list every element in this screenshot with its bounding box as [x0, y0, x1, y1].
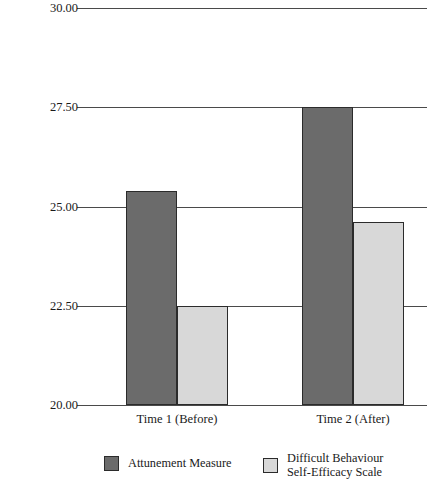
gridline-30.00 — [86, 8, 427, 9]
legend-label: Difficult BehaviourSelf-Efficacy Scale — [287, 452, 383, 479]
y-axis-tick-mark — [77, 207, 86, 208]
y-axis-tick-mark — [77, 405, 86, 406]
bar — [126, 191, 177, 405]
y-axis-tick-label: 30.00 — [20, 1, 78, 16]
y-axis-tick-mark — [77, 306, 86, 307]
y-axis-tick-mark — [77, 107, 86, 108]
bar — [302, 107, 353, 405]
y-axis-tick-label: 27.50 — [20, 100, 78, 115]
y-axis-tick-label: 22.50 — [20, 298, 78, 313]
bar-chart: Average Score 30.0027.5025.0022.5020.00 … — [0, 0, 447, 495]
gridline-20.00 — [86, 405, 427, 406]
legend-swatch-icon — [104, 456, 119, 471]
legend-swatch-icon — [263, 458, 278, 473]
y-axis-tick-mark — [77, 8, 86, 9]
y-axis-tick-label: 25.00 — [20, 199, 78, 214]
legend-item[interactable]: Attunement Measure — [104, 456, 231, 471]
bar — [353, 222, 404, 405]
legend-item[interactable]: Difficult BehaviourSelf-Efficacy Scale — [263, 452, 383, 479]
gridline-27.50 — [86, 107, 427, 108]
x-axis-label-2: Time 2 (After) — [273, 412, 433, 427]
y-axis-tick-label: 20.00 — [20, 398, 78, 413]
plot-area: 30.0027.5025.0022.5020.00 — [86, 8, 427, 405]
x-axis-label-1: Time 1 (Before) — [97, 412, 257, 427]
bar — [177, 306, 228, 405]
chart-legend: Attunement MeasureDifficult BehaviourSel… — [0, 452, 447, 492]
legend-label: Attunement Measure — [128, 457, 231, 471]
